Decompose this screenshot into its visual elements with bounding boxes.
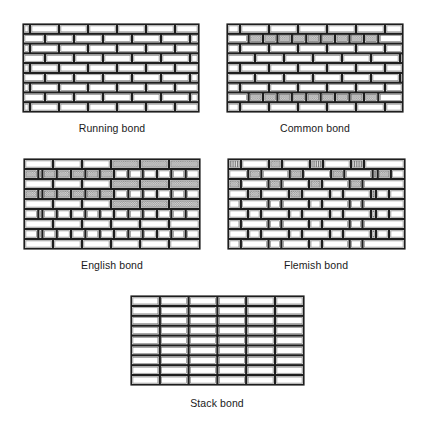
common-bond-caption: Common bond [255,122,375,134]
english-bond-caption: English bond [52,259,172,271]
running-bond-caption: Running bond [52,122,172,134]
stack-bond-wall [130,295,305,386]
stack-bond-caption: Stack bond [157,397,277,409]
common-bond-wall [226,23,404,113]
flemish-bond-caption: Flemish bond [256,259,376,271]
english-bond-wall [23,158,201,250]
running-bond-wall [22,23,200,113]
flemish-bond-wall [227,158,406,250]
